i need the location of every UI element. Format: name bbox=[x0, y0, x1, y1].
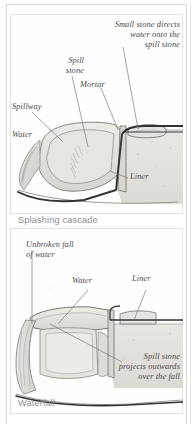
water-fall-sheet bbox=[16, 320, 36, 394]
panel-splashing-cascade: Small stone directs water onto the spill… bbox=[10, 14, 183, 214]
label-spill-stone-note: Spill stone projects outwards over the f… bbox=[72, 352, 180, 382]
label-liner-lower: Liner bbox=[132, 274, 170, 284]
small-stone-lower bbox=[120, 311, 156, 324]
caption-waterfall: Waterfall bbox=[18, 398, 55, 408]
illustration-page: Small stone directs water onto the spill… bbox=[0, 0, 193, 428]
water-spillway bbox=[19, 140, 40, 190]
label-unbroken-fall: Unbroken fall of water bbox=[26, 240, 112, 260]
label-mortar: Mortar bbox=[80, 80, 126, 90]
label-water-lower: Water bbox=[72, 276, 112, 286]
label-water: Water bbox=[12, 130, 52, 140]
caption-splashing-cascade: Splashing cascade bbox=[18, 215, 98, 225]
label-spillway: Spillway bbox=[12, 102, 62, 112]
label-small-stone-note: Small stone directs water onto the spill… bbox=[102, 20, 180, 50]
page-rule-right bbox=[186, 4, 187, 424]
panel-waterfall: Unbroken fall of water Water Liner Spill… bbox=[10, 228, 183, 414]
page-rule-left bbox=[6, 4, 7, 424]
label-liner: Liner bbox=[130, 172, 166, 182]
spill-stone-inner bbox=[47, 130, 114, 184]
label-spill-stone: Spill stone bbox=[36, 56, 84, 76]
page-rule-right-outer bbox=[190, 4, 191, 424]
page-rule-top bbox=[6, 4, 187, 5]
